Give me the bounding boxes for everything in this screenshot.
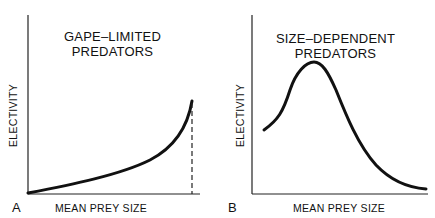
electivity-curve <box>264 62 426 189</box>
title-line-2: PREDATORS <box>60 44 165 59</box>
title-line-1: GAPE–LIMITED <box>60 29 165 44</box>
panel-label: A <box>12 200 21 215</box>
panel-label: B <box>228 200 237 215</box>
electivity-curve <box>28 101 192 193</box>
chart-a-title: GAPE–LIMITED PREDATORS <box>60 29 165 59</box>
y-axis-label: ELECTIVITY <box>234 84 246 147</box>
title-line-2: PREDATORS <box>273 46 398 61</box>
title-line-1: SIZE–DEPENDENT <box>273 31 398 46</box>
chart-b-title: SIZE–DEPENDENT PREDATORS <box>273 31 398 61</box>
chart-panel-a: GAPE–LIMITED PREDATORS ELECTIVITY MEAN P… <box>0 0 217 218</box>
x-axis-label: MEAN PREY SIZE <box>293 202 385 214</box>
x-axis-label: MEAN PREY SIZE <box>55 202 147 214</box>
chart-panel-b: SIZE–DEPENDENT PREDATORS ELECTIVITY MEAN… <box>218 0 435 218</box>
y-axis-label: ELECTIVITY <box>7 84 19 147</box>
